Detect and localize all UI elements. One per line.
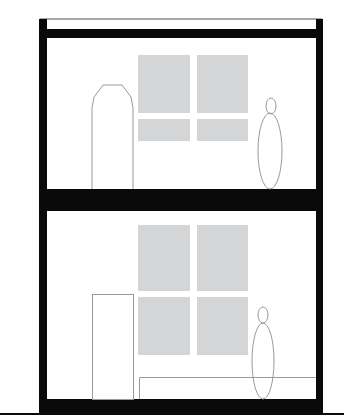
window-pane xyxy=(138,297,190,355)
head xyxy=(258,307,268,323)
bench xyxy=(140,378,317,400)
window-pane xyxy=(138,119,190,141)
ground-line xyxy=(0,413,344,415)
window-pane xyxy=(197,119,248,141)
floor-slab-middle xyxy=(39,189,323,211)
person-figure-lower xyxy=(252,307,274,399)
window-pane xyxy=(197,55,248,113)
roof-slab xyxy=(39,29,323,38)
body xyxy=(258,113,282,189)
floor-slab-ground xyxy=(39,399,323,415)
lower-door xyxy=(93,295,134,400)
body xyxy=(252,323,274,399)
window-pane xyxy=(197,225,248,291)
person-figure-upper xyxy=(258,98,282,189)
upper-window xyxy=(138,55,248,141)
section-drawing xyxy=(0,0,344,420)
window-pane xyxy=(138,225,190,291)
head xyxy=(266,98,276,114)
left-wall xyxy=(39,19,47,415)
lower-window xyxy=(138,225,248,355)
right-wall xyxy=(316,19,323,415)
parapet-line xyxy=(40,18,322,20)
window-pane xyxy=(197,297,248,355)
window-pane xyxy=(138,55,190,113)
upper-door-opening xyxy=(92,85,133,189)
